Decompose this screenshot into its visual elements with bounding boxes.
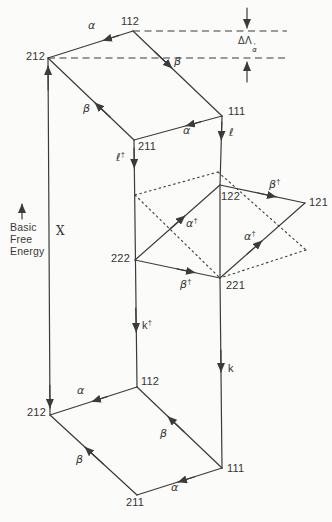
label-layer: 112 212 111 211 122 121 222 221 112 212 …	[0, 0, 332, 522]
state-label-111-bottom: 111	[227, 463, 244, 474]
rate-label-k: k	[228, 363, 234, 374]
free-energy-diagram: 112 212 111 211 122 121 222 221 112 212 …	[0, 0, 332, 522]
state-label-122: 122	[221, 191, 240, 202]
rate-label-beta-bottom-right: β	[160, 428, 167, 439]
rate-label-alpha-top-left: α	[88, 20, 95, 31]
state-label-222: 222	[111, 253, 130, 264]
state-label-212-bottom: 212	[27, 407, 46, 418]
rate-label-beta-top-right: β	[174, 56, 181, 67]
state-label-221: 221	[226, 280, 245, 291]
state-label-112-top: 112	[121, 16, 139, 27]
state-label-211-bottom: 211	[126, 497, 144, 508]
state-label-211-top: 211	[138, 141, 156, 152]
rate-label-beta-dagger-top: β†	[269, 179, 281, 190]
rate-label-alpha-dagger-right: α†	[244, 231, 256, 242]
state-label-111-top: 111	[228, 106, 245, 117]
rate-label-k-dagger: k†	[142, 320, 152, 331]
rate-label-alpha-dagger-left: α†	[186, 218, 198, 229]
rate-label-alpha-top-lower: α	[183, 125, 190, 136]
x-span-label: X	[56, 226, 65, 237]
rate-label-ell-dagger: ℓ†	[116, 152, 125, 163]
state-label-121: 121	[309, 197, 328, 208]
rate-label-beta-bottom-lower: β	[76, 454, 83, 465]
rate-label-beta-dagger-bottom: β†	[180, 279, 192, 290]
rate-label-alpha-bottom-left: α	[77, 385, 84, 396]
state-label-112-bottom: 112	[141, 376, 159, 387]
state-label-212-top: 212	[26, 51, 45, 62]
rate-label-beta-top-lower: β	[83, 103, 90, 114]
rate-label-alpha-bottom-lower: α	[171, 482, 178, 493]
delta-lambda-label: ΔΛ′α	[238, 35, 257, 53]
energy-axis-caption: Basic Free Energy	[10, 222, 44, 257]
rate-label-ell: ℓ	[229, 127, 234, 138]
